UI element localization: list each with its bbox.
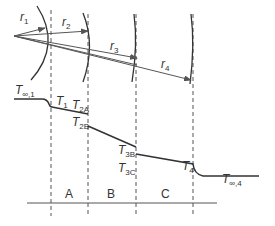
radius-3-arrow [14, 36, 137, 58]
surface-4-arc [190, 14, 193, 84]
t2a-label: T2A [72, 98, 90, 114]
r1-label: r1 [20, 10, 29, 26]
t3c-label: T3C [118, 161, 136, 177]
r4-label: r4 [161, 57, 170, 73]
t1-label: T1 [56, 94, 68, 110]
interface-lines [51, 10, 193, 216]
t2b-label: T2B [72, 115, 89, 131]
layer-a-label: A [65, 187, 73, 201]
r3-label: r3 [110, 39, 119, 55]
surface-3-arc [132, 14, 136, 82]
layer-c-label: C [161, 187, 170, 201]
r2-label: r2 [62, 15, 71, 31]
t4-label: T4 [182, 159, 194, 175]
surface-2-arc [83, 13, 90, 82]
t-inf-1-label: T∞,1 [15, 83, 35, 99]
t-inf-4-label: T∞,4 [222, 172, 242, 188]
layer-b-label: B [107, 187, 115, 201]
composite-wall-temperature-diagram: r1 r2 r3 r4 T∞,1 T1 T2A T2B T3B T3C T4 T… [0, 0, 275, 226]
